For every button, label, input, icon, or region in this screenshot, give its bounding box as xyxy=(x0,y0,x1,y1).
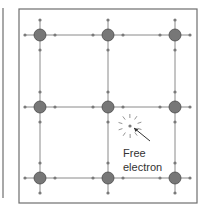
free-electron-label-line2: electron xyxy=(123,161,162,173)
motion-ray xyxy=(119,129,123,130)
electron-dot xyxy=(23,105,26,108)
electron-dot xyxy=(158,176,161,179)
electron-dot xyxy=(188,105,191,108)
motion-ray xyxy=(123,116,125,119)
ion-circle xyxy=(102,29,114,41)
electron-dot xyxy=(38,18,41,21)
electron-dot xyxy=(53,176,56,179)
electron-dot xyxy=(23,33,26,36)
electron-dot xyxy=(38,120,41,123)
electron-dot xyxy=(158,33,161,36)
electron-dot xyxy=(188,33,191,36)
free-electron xyxy=(119,114,150,141)
motion-ray xyxy=(135,116,137,119)
electron-dot xyxy=(173,120,176,123)
electron-dot xyxy=(106,161,109,164)
electron-dot xyxy=(91,105,94,108)
electron-dot xyxy=(173,18,176,21)
electron-dot xyxy=(38,191,41,194)
electron-dot xyxy=(23,176,26,179)
free-electron-dot xyxy=(128,124,131,127)
electron-dot xyxy=(106,120,109,123)
electron-dot xyxy=(106,48,109,51)
electron-dot xyxy=(91,33,94,36)
electron-dot xyxy=(38,161,41,164)
motion-ray xyxy=(119,122,123,123)
ion-circle xyxy=(169,172,181,184)
ion-circle xyxy=(102,101,114,113)
electron-dot xyxy=(173,161,176,164)
electron-dot xyxy=(53,33,56,36)
electron-dot xyxy=(38,48,41,51)
electron-dot xyxy=(158,105,161,108)
ion-circle xyxy=(34,172,46,184)
electron-dot xyxy=(121,176,124,179)
free-electron-lattice-diagram: Free electron xyxy=(0,0,205,217)
ion-circle xyxy=(169,101,181,113)
electron-dot xyxy=(173,48,176,51)
motion-ray xyxy=(138,122,142,123)
ion-circle xyxy=(169,29,181,41)
ion-circle xyxy=(34,29,46,41)
electron-dot xyxy=(188,176,191,179)
ion-circle xyxy=(102,172,114,184)
electron-dot xyxy=(173,191,176,194)
electron-dot xyxy=(38,90,41,93)
electron-dot xyxy=(121,105,124,108)
electron-dot xyxy=(106,191,109,194)
ion-circle xyxy=(34,101,46,113)
motion-ray xyxy=(123,133,125,136)
electron-dot xyxy=(91,176,94,179)
electron-dot xyxy=(121,33,124,36)
electron-dot xyxy=(53,105,56,108)
free-electron-label-line1: Free xyxy=(123,147,146,159)
electron-dot xyxy=(106,90,109,93)
motion-ray xyxy=(135,132,137,135)
electron-dot xyxy=(173,90,176,93)
electron-dot xyxy=(106,18,109,21)
